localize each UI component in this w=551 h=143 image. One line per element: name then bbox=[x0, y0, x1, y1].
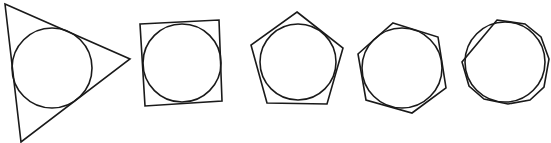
figure-hexagon bbox=[358, 23, 446, 113]
pentagon-inscribed-circle bbox=[260, 24, 336, 100]
figure-pentagon bbox=[251, 12, 343, 104]
figure-decagon bbox=[462, 20, 549, 104]
triangle-polygon bbox=[5, 4, 130, 142]
hexagon-polygon bbox=[358, 23, 446, 113]
square-inscribed-circle bbox=[143, 24, 221, 102]
pentagon-polygon bbox=[251, 12, 343, 104]
decagon-inscribed-circle bbox=[465, 22, 545, 102]
triangle-inscribed-circle bbox=[12, 28, 92, 108]
figure-square bbox=[140, 20, 222, 106]
figure-triangle bbox=[5, 4, 130, 142]
hexagon-inscribed-circle bbox=[362, 28, 442, 108]
decagon-polygon bbox=[462, 20, 549, 104]
polygon-circle-diagram bbox=[0, 0, 551, 143]
square-polygon bbox=[140, 20, 222, 106]
